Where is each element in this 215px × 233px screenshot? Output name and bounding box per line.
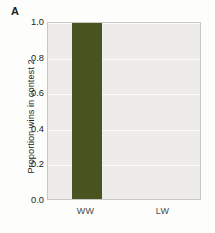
y-axis-tick-labels: 0.00.20.40.60.81.0	[16, 0, 44, 233]
plot-area	[47, 22, 201, 200]
y-tick-label: 0.6	[18, 88, 44, 98]
y-tick-label: 0.0	[18, 195, 44, 205]
bar-ww	[72, 22, 102, 199]
y-tick-label: 1.0	[18, 17, 44, 27]
y-tick-label: 0.8	[18, 53, 44, 63]
y-tick-label: 0.2	[18, 159, 44, 169]
x-tick-label: WW	[77, 206, 95, 217]
y-tick-label: 0.4	[18, 124, 44, 134]
x-tick-label: LW	[156, 206, 169, 217]
figure-panel-a: A Proportion wins in contest 2 0.00.20.4…	[0, 0, 215, 233]
